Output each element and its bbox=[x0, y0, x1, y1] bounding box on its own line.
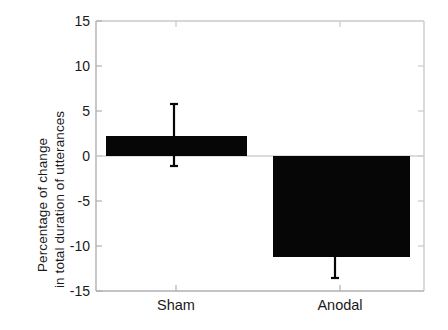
x-tick-label-sham: Sham bbox=[116, 297, 236, 313]
bar-chart-figure: Percentage of change in total duration o… bbox=[0, 0, 448, 330]
bar-anodal bbox=[273, 156, 410, 257]
plot-canvas bbox=[0, 0, 448, 330]
error-bar-anodal bbox=[331, 257, 339, 278]
x-tick-label-anodal: Anodal bbox=[280, 297, 400, 313]
bar-sham bbox=[106, 136, 247, 156]
